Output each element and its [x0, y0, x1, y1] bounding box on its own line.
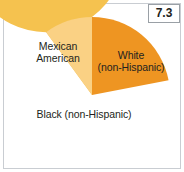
pie-label-white-non-hispanic: White (non-Hispanic) — [93, 49, 169, 73]
pie-label-white-line1: White — [93, 49, 169, 61]
pie-label-mexican-line2: American — [24, 52, 92, 64]
figure-number-badge: 7.3 — [148, 4, 180, 23]
pie-chart — [0, 0, 184, 172]
pie-label-black-non-hispanic: Black (non-Hispanic) — [14, 108, 154, 120]
pie-label-mexican-line1: Mexican — [24, 40, 92, 52]
figure-container: White (non-Hispanic) Mexican American Bl… — [0, 0, 184, 172]
pie-chart-svg — [0, 0, 184, 172]
pie-label-white-line2: (non-Hispanic) — [93, 61, 169, 73]
pie-label-black-line1: Black (non-Hispanic) — [14, 108, 154, 120]
pie-label-mexican-american: Mexican American — [24, 40, 92, 64]
